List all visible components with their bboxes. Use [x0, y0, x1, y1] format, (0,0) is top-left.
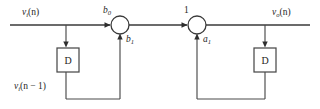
arrowhead-into-delay-left — [63, 42, 68, 48]
arrowhead-into-delay-right — [262, 42, 267, 48]
output-signal-arg: (n) — [280, 7, 291, 18]
coefficient-unity-label: 1 — [184, 5, 189, 15]
arrowhead-into-summer2-left — [182, 22, 188, 28]
coefficient-b1-label: b1 — [126, 34, 134, 45]
coefficient-b0-label: b0 — [103, 5, 112, 16]
signal-flow-diagram: D D vi(n) vi(n − 1) vo(n) — [0, 0, 320, 109]
delay-right-label: D — [261, 55, 268, 66]
delayed-input-arg: (n − 1) — [20, 81, 46, 92]
coefficient-a1-label: a1 — [203, 34, 211, 45]
coefficient-b0-subscript: 0 — [108, 9, 112, 16]
diagram-canvas: D D vi(n) vi(n − 1) vo(n) — [0, 0, 320, 109]
coefficient-a1-subscript: 1 — [208, 38, 211, 45]
summing-junction-2 — [188, 16, 206, 34]
input-signal-label: vi(n) — [22, 7, 39, 18]
coefficient-b1-subscript: 1 — [131, 38, 134, 45]
delay-left-label: D — [64, 55, 71, 66]
input-signal-arg: (n) — [28, 7, 39, 18]
arrowhead-into-summer1-left — [105, 22, 111, 28]
delayed-input-signal-label: vi(n − 1) — [14, 81, 46, 92]
summing-junction-1 — [111, 16, 129, 34]
output-signal-label: vo(n) — [272, 7, 291, 18]
